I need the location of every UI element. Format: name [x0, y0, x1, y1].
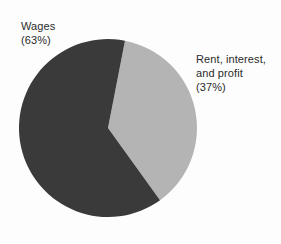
pie-label-rent-value: (37%) — [196, 80, 266, 94]
pie-label-wages-value: (63%) — [21, 33, 55, 47]
pie-label-rent-interest-profit: Rent, interest, and profit (37%) — [196, 52, 266, 95]
pie-label-rent-name-line2: and profit — [196, 66, 266, 80]
pie-label-wages-name: Wages — [21, 19, 55, 33]
pie-label-wages: Wages (63%) — [21, 19, 55, 47]
pie-label-rent-name-line1: Rent, interest, — [196, 52, 266, 66]
pie-chart: Wages (63%) Rent, interest, and profit (… — [0, 0, 281, 244]
